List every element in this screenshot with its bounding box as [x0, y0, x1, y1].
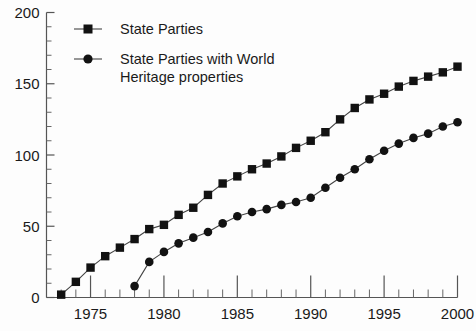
data-point-marker — [321, 128, 329, 136]
data-point-marker — [380, 90, 388, 98]
data-point-marker — [116, 243, 124, 251]
y-tick-label: 0 — [31, 289, 39, 306]
x-tick-label: 1985 — [221, 305, 254, 322]
data-point-marker — [218, 219, 227, 228]
y-tick-label: 100 — [14, 147, 39, 164]
legend-circle-marker-icon — [83, 54, 92, 63]
x-tick-label: 2000 — [441, 305, 474, 322]
data-point-marker — [233, 212, 242, 221]
legend-label: Heritage properties — [120, 69, 243, 85]
y-tick-label: 200 — [14, 4, 39, 21]
series-line — [61, 67, 457, 295]
series-1 — [57, 62, 462, 298]
chart-container: 050100150200197519801985199019952000Stat… — [0, 0, 476, 331]
data-point-marker — [218, 179, 226, 187]
legend-label: State Parties — [120, 21, 203, 37]
data-point-marker — [262, 159, 270, 167]
data-point-marker — [439, 68, 447, 76]
data-point-marker — [248, 208, 257, 217]
data-point-marker — [350, 165, 359, 174]
data-point-marker — [395, 82, 403, 90]
legend-label: State Parties with World — [120, 51, 274, 67]
data-point-marker — [160, 248, 169, 257]
data-point-marker — [453, 118, 462, 127]
data-point-marker — [292, 144, 300, 152]
legend-square-marker-icon — [84, 25, 93, 34]
data-point-marker — [204, 228, 213, 237]
data-point-marker — [57, 290, 65, 298]
data-point-marker — [394, 139, 403, 148]
data-point-marker — [145, 225, 153, 233]
data-point-marker — [439, 122, 448, 131]
data-point-marker — [336, 174, 345, 183]
y-tick-label: 150 — [14, 75, 39, 92]
legend-item-2: State Parties with WorldHeritage propert… — [74, 51, 274, 85]
data-point-marker — [174, 211, 182, 219]
data-point-marker — [306, 193, 315, 202]
data-point-marker — [277, 152, 285, 160]
data-point-marker — [130, 282, 139, 291]
data-point-marker — [351, 104, 359, 112]
legend-item-1: State Parties — [74, 21, 203, 37]
data-point-marker — [409, 134, 418, 143]
data-point-marker — [453, 62, 461, 70]
data-point-marker — [145, 258, 154, 267]
data-point-marker — [189, 204, 197, 212]
data-point-marker — [248, 165, 256, 173]
data-point-marker — [204, 191, 212, 199]
data-point-marker — [262, 205, 271, 214]
data-point-marker — [365, 155, 374, 164]
data-point-marker — [101, 252, 109, 260]
data-point-marker — [189, 233, 198, 242]
data-point-marker — [424, 129, 433, 138]
data-point-marker — [380, 146, 389, 155]
data-point-marker — [409, 77, 417, 85]
x-tick-label: 1990 — [294, 305, 327, 322]
data-point-marker — [292, 198, 301, 207]
data-point-marker — [233, 172, 241, 180]
data-point-marker — [174, 239, 183, 248]
data-point-marker — [130, 235, 138, 243]
data-point-marker — [160, 221, 168, 229]
data-point-marker — [336, 115, 344, 123]
data-point-marker — [277, 201, 286, 210]
line-chart: 050100150200197519801985199019952000Stat… — [0, 0, 476, 331]
data-point-marker — [321, 183, 330, 192]
data-point-marker — [72, 278, 80, 286]
x-tick-label: 1995 — [367, 305, 400, 322]
y-tick-label: 50 — [23, 218, 40, 235]
data-point-marker — [365, 95, 373, 103]
x-tick-label: 1980 — [147, 305, 180, 322]
data-point-marker — [86, 263, 94, 271]
x-tick-label: 1975 — [74, 305, 107, 322]
data-point-marker — [307, 137, 315, 145]
data-point-marker — [424, 72, 432, 80]
